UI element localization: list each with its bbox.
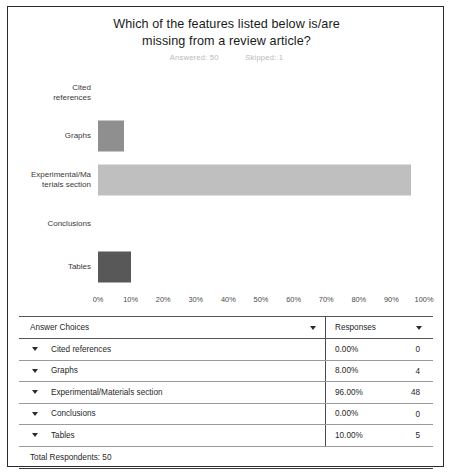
response-count: 0 [415,409,420,418]
table-row: Conclusions0.00%0 [19,404,433,426]
cell-answer-choice: Conclusions [19,404,326,425]
response-percent: 0.00% [326,345,358,354]
x-axis-tick-label: 30% [188,295,203,304]
chart-title-line2: missing from a review article? [48,33,405,50]
x-axis-tick-label: 50% [254,295,269,304]
bar-category-label: Conclusions [5,218,91,229]
answered-count: Answered: 50 [170,53,219,62]
header-cell-answer-choices: Answer Choices [19,317,326,338]
response-count: 5 [415,431,420,440]
header-cell-responses: Responses [326,317,433,338]
total-respondents-cell: Total Respondents: 50 [19,447,433,468]
chart-title: Which of the features listed below is/ar… [48,16,405,50]
cell-answer-choice: Cited references [19,339,326,360]
bar-row: Cited references [98,71,424,115]
response-percent: 0.00% [326,409,358,418]
row-expand-caret-icon[interactable] [32,412,38,416]
skipped-count: Skipped: 1 [245,53,283,62]
response-percent: 96.00% [326,388,363,397]
answer-choice-label: Conclusions [19,409,96,418]
cell-responses: 0.00%0 [326,404,433,425]
x-axis-tick-labels: 0%10%20%30%40%50%60%70%80%90%100% [98,295,424,309]
bar-row: Experimental/Ma terials section [98,158,424,202]
row-expand-caret-icon[interactable] [32,369,38,373]
table-row: Tables10.00%5 [19,425,433,447]
x-axis-tick-label: 80% [351,295,366,304]
bar [98,121,124,152]
cell-responses: 8.00%4 [326,361,433,382]
table-row: Graphs8.00%4 [19,361,433,383]
answer-choices-header-label: Answer Choices [19,323,89,332]
cell-answer-choice: Graphs [19,361,326,382]
bar-row: Tables [98,245,424,289]
chart-title-line1: Which of the features listed below is/ar… [113,17,340,31]
answer-choice-label: Graphs [19,366,78,375]
response-percent: 8.00% [326,366,358,375]
answer-choice-label: Experimental/Materials section [19,388,163,397]
bar [98,252,131,283]
cell-responses: 96.00%48 [326,382,433,403]
x-axis-tick-label: 40% [221,295,236,304]
total-respondents-label: Total Respondents: 50 [19,453,111,462]
x-axis-tick-label: 90% [384,295,399,304]
answer-choices-sort-caret-icon[interactable] [310,326,316,330]
bar-chart: Which of the features listed below is/ar… [8,7,445,314]
table-row: Experimental/Materials section96.00%48 [19,382,433,404]
x-axis-tick-label: 70% [319,295,334,304]
response-percent: 10.00% [326,431,363,440]
response-count: 0 [415,345,420,354]
survey-results-page: Which of the features listed below is/ar… [0,0,451,476]
answer-choice-label: Tables [19,431,75,440]
table-body: Cited references0.00%0Graphs8.00%4Experi… [19,339,433,447]
x-axis-tick-label: 0% [93,295,104,304]
plot-area: Cited referencesGraphsExperimental/Ma te… [98,71,424,289]
x-axis-tick-label: 60% [286,295,301,304]
table-header-row: Answer Choices Responses [19,316,433,339]
chart-subtitle: Answered: 50 Skipped: 1 [48,53,405,62]
bar-category-label: Cited references [5,82,91,103]
cell-responses: 0.00%0 [326,339,433,360]
responses-header-label: Responses [326,323,376,332]
x-axis-tick-label: 20% [156,295,171,304]
table-row: Cited references0.00%0 [19,339,433,361]
x-axis-tick-label: 10% [123,295,138,304]
row-expand-caret-icon[interactable] [32,390,38,394]
responses-sort-caret-icon[interactable] [416,326,422,330]
cell-responses: 10.00%5 [326,425,433,446]
response-count: 4 [415,366,420,375]
bar-category-label: Experimental/Ma terials section [5,169,91,190]
cell-answer-choice: Tables [19,425,326,446]
bar-row: Conclusions [98,202,424,246]
row-expand-caret-icon[interactable] [32,433,38,437]
total-respondents-row: Total Respondents: 50 [19,447,433,469]
row-expand-caret-icon[interactable] [32,347,38,351]
bar-category-label: Graphs [5,131,91,142]
response-count: 48 [411,388,420,397]
bar-category-label: Tables [5,262,91,273]
x-axis-tick-label: 100% [415,295,434,304]
cell-answer-choice: Experimental/Materials section [19,382,326,403]
results-table: Answer Choices Responses Cited reference… [19,316,433,456]
bar [98,164,411,195]
document-frame: Which of the features listed below is/ar… [7,6,444,467]
bar-row: Graphs [98,115,424,159]
